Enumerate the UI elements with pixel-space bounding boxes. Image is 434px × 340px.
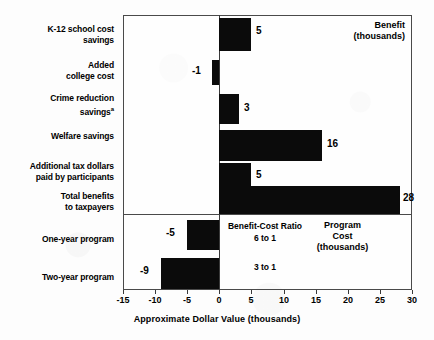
x-axis-title: Approximate Dollar Value (thousands) [0, 314, 434, 324]
tick-mark-0 [219, 290, 220, 294]
category-label-line1: Total benefits [61, 191, 114, 201]
category-label-line2: paid by participants [36, 172, 114, 182]
tick-label-30: 30 [392, 295, 432, 305]
bar-value-welfare: 16 [327, 139, 338, 149]
category-label-welfare: Welfare savings [0, 131, 114, 142]
benefit-section-unit: (thousands) [354, 31, 406, 41]
category-label-line1: Welfare savings [51, 131, 114, 141]
bar-value-total-benefits: 28 [403, 193, 414, 203]
category-label-k12: K-12 school cost savings [0, 24, 114, 45]
bar-value-one-year: -5 [166, 228, 175, 238]
category-label-line1: Added [88, 60, 114, 70]
bar-crime-reduction-savings [219, 94, 239, 124]
bar-value-college: -1 [192, 66, 201, 76]
category-label-line1: Crime reduction [50, 93, 114, 103]
category-label-two-year: Two-year program [0, 272, 114, 283]
category-label-line2: savings [83, 35, 114, 45]
category-label-college: Added college cost [0, 60, 114, 81]
tick-mark-15 [316, 290, 317, 294]
tick-mark-5 [251, 290, 252, 294]
tick-mark-20 [348, 290, 349, 294]
bar-value-k12: 5 [256, 26, 262, 36]
category-label-total-benefits: Total benefits to taxpayers [0, 191, 114, 212]
benefit-cost-ratio-heading: Benefit-Cost Ratio [200, 221, 330, 232]
bar-welfare-savings [219, 130, 322, 161]
category-label-line1: Two-year program [42, 272, 114, 282]
category-label-crime: Crime reduction savingsa [0, 93, 114, 117]
tick-mark--15 [123, 290, 124, 294]
category-label-line1: One-year program [42, 234, 114, 244]
bar-added-college-cost [212, 60, 219, 85]
benefit-section-title: Benefit [374, 20, 405, 30]
tick-mark--5 [187, 290, 188, 294]
tick-mark-30 [412, 290, 413, 294]
section-divider [123, 214, 412, 215]
tick-mark--10 [155, 290, 156, 294]
category-label-line2: college cost [66, 71, 114, 81]
tick-mark-25 [380, 290, 381, 294]
category-label-tax-dollars: Additional tax dollars paid by participa… [0, 161, 114, 182]
category-label-line2: savings [80, 106, 111, 116]
bar-value-crime: 3 [244, 103, 250, 113]
category-label-line1: Additional tax dollars [30, 161, 114, 171]
bar-chart: K-12 school cost savings Added college c… [0, 0, 434, 340]
benefit-section-note: Benefit (thousands) [280, 20, 405, 42]
bar-total-benefits-to-taxpayers [219, 186, 400, 214]
tick-mark-10 [284, 290, 285, 294]
bar-k12-school-cost-savings [219, 18, 251, 51]
program-cost-title-line2: Cost [333, 231, 353, 241]
category-label-one-year: One-year program [0, 234, 114, 245]
benefit-cost-ratio-two-year: 3 to 1 [200, 262, 330, 273]
benefit-cost-ratio-one-year: 6 to 1 [200, 233, 330, 244]
bar-value-tax-dollars: 5 [256, 170, 262, 180]
category-label-line2: to taxpayers [65, 202, 114, 212]
category-label-line1: K-12 school cost [48, 24, 114, 34]
footnote-marker: a [111, 106, 114, 112]
bar-value-two-year: -9 [140, 266, 149, 276]
